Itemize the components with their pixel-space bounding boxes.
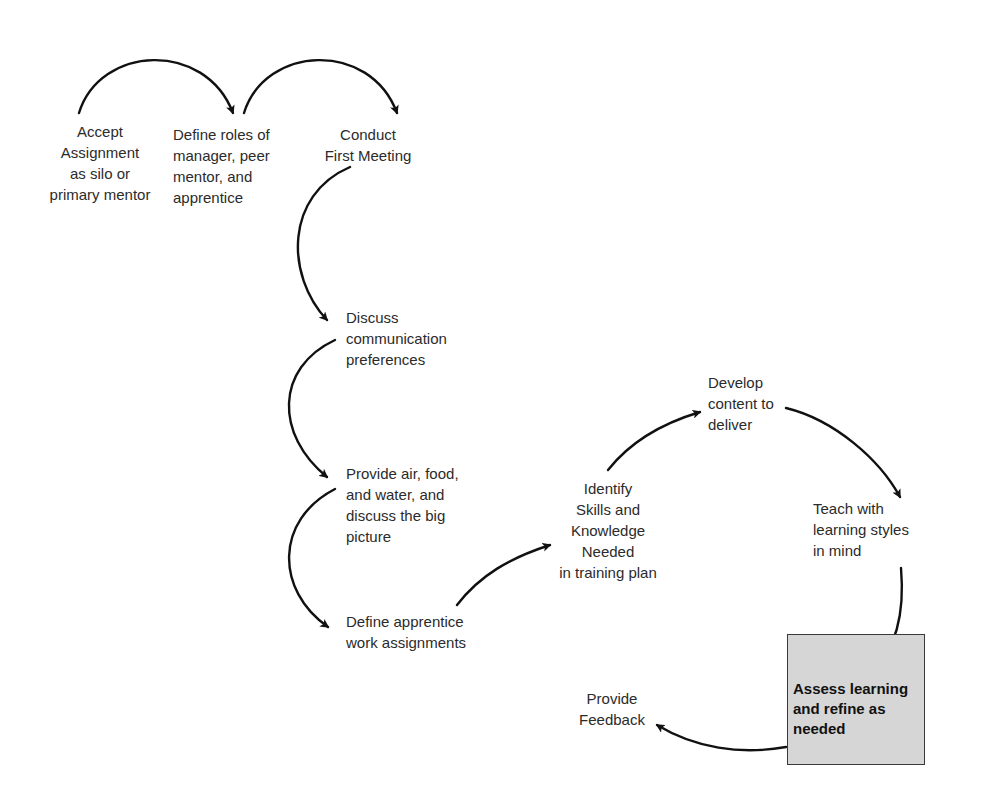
step-develop-content: Develop content to deliver (708, 372, 808, 435)
step-define-roles: Define roles of manager, peer mentor, an… (173, 124, 293, 208)
step-assess-learning: Assess learning and refine as needed (793, 679, 923, 739)
step-conduct-first-meeting: Conduct First Meeting (308, 124, 428, 166)
step-discuss-communication: Discuss communication preferences (346, 307, 476, 370)
step-provide-feedback: Provide Feedback (562, 688, 662, 730)
step-provide-big-picture: Provide air, food, and water, and discus… (346, 463, 486, 547)
arrow-work-assignments-to-identify-skills (457, 545, 550, 605)
step-teach: Teach with learning styles in mind (813, 498, 933, 561)
arrow-big-picture-to-work-assignments (289, 489, 335, 627)
step-assess-box: Assess learning and refine as needed (787, 634, 925, 765)
arrow-assess-to-feedback (657, 725, 786, 750)
step-accept-assignment: Accept Assignment as silo or primary men… (40, 121, 160, 205)
arrow-accept-to-define-roles (79, 60, 233, 113)
arrow-first-meeting-to-communication (298, 167, 350, 320)
step-define-work-assignments: Define apprentice work assignments (346, 611, 496, 653)
arrow-communication-to-big-picture (289, 340, 335, 477)
arrow-define-roles-to-first-meeting (244, 60, 397, 113)
arrow-identify-skills-to-develop-content (608, 412, 700, 470)
step-identify-skills: Identify Skills and Knowledge Needed in … (548, 478, 668, 583)
